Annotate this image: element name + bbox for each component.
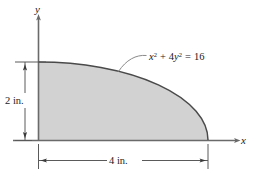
horizontal-dimension-label: 4 in.: [109, 155, 128, 166]
equation-sup-2: 2: [179, 51, 182, 58]
equation-equals: =: [185, 51, 191, 62]
equation-leader-line: [119, 55, 147, 71]
equation-sup-1: 2: [154, 51, 157, 58]
svg-text:x2+4y2=16: x2+4y2=16: [148, 51, 204, 63]
y-axis-label: y: [34, 3, 40, 15]
equation-constant: 16: [194, 51, 205, 62]
shaded-region: [39, 62, 209, 140]
figure-container: 2 in. 4 in. y x x2+4y2=16: [0, 0, 261, 177]
equation-operator: +: [160, 51, 166, 62]
vertical-dimension-label: 2 in.: [5, 95, 24, 106]
quarter-ellipse-diagram: 2 in. 4 in. y x x2+4y2=16: [0, 0, 261, 177]
x-axis-label: x: [240, 134, 246, 146]
curve-equation-label: x2+4y2=16: [148, 51, 204, 63]
